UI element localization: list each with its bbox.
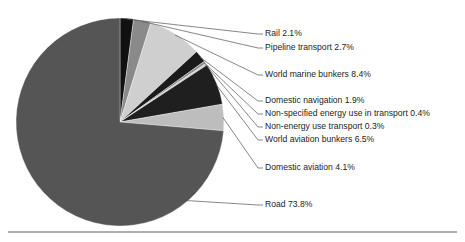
pie-chart-figure: Rail 2.1%Pipeline transport 2.7%World ma… <box>0 0 465 242</box>
slice-label: Road 73.8% <box>265 199 313 209</box>
pie-chart-svg: Rail 2.1%Pipeline transport 2.7%World ma… <box>0 0 465 242</box>
slice-label: Non-energy use transport 0.3% <box>265 121 385 131</box>
slice-label: Domestic aviation 4.1% <box>265 162 355 172</box>
pie-slices-group <box>16 18 224 226</box>
slice-labels-group: Rail 2.1%Pipeline transport 2.7%World ma… <box>265 28 430 209</box>
leader-line <box>223 117 263 168</box>
slice-label: Non-specified energy use in transport 0.… <box>265 108 430 118</box>
slice-label: World aviation bunkers 6.5% <box>265 134 375 144</box>
slice-label: Rail 2.1% <box>265 28 302 38</box>
slice-label: Domestic navigation 1.9% <box>265 95 365 105</box>
slice-label: Pipeline transport 2.7% <box>265 42 354 52</box>
slice-label: World marine bunkers 8.4% <box>265 69 371 79</box>
